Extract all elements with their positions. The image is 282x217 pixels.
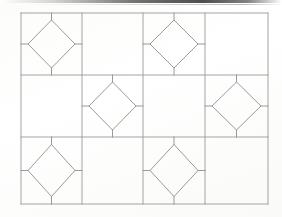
scanned-drawing-canvas	[0, 0, 282, 217]
diamond-shapes-layer	[21, 13, 268, 204]
diamond-r3c1	[28, 145, 75, 197]
grid-lines-layer	[21, 13, 268, 204]
diamond-r2c2	[89, 82, 136, 130]
tile-pattern-drawing	[0, 0, 282, 217]
diamond-r1c1	[28, 20, 75, 68]
diamond-r1c3	[150, 20, 198, 68]
diamond-r3c3	[150, 145, 198, 197]
diamond-r2c4	[212, 82, 261, 130]
